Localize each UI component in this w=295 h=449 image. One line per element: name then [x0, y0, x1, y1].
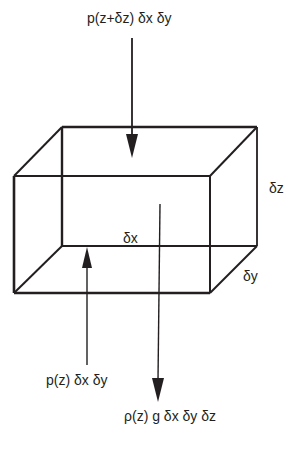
dimension-z-label: δz: [269, 180, 284, 196]
dimension-y-label: δy: [243, 268, 258, 284]
bottom-force-label: p(z) δx δy: [46, 372, 107, 388]
weight-arrow: [152, 204, 164, 402]
box-front-face: [14, 176, 210, 293]
fluid-element-diagram: [0, 0, 295, 449]
dimension-x-label: δx: [123, 230, 138, 246]
box-depth-edges: [14, 127, 257, 293]
weight-label: ρ(z) g δx δy δz: [124, 408, 216, 424]
top-pressure-arrow: [126, 38, 138, 158]
bottom-pressure-arrow: [82, 247, 92, 365]
top-force-label: p(z+δz) δx δy: [87, 10, 171, 26]
